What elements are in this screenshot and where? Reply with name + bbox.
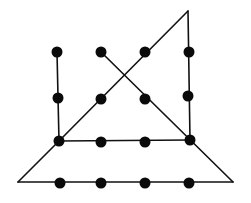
line-right-vertical	[188, 11, 190, 140]
grid-dots	[52, 47, 196, 189]
connecting-lines	[18, 11, 233, 182]
dot-r1c1	[52, 47, 63, 58]
line-falling-diagonal	[101, 52, 233, 182]
line-rising-diagonal	[59, 11, 188, 141]
dot-r1c3	[140, 47, 151, 58]
dot-r2c1	[53, 93, 64, 104]
dot-r1c4	[184, 47, 195, 58]
line-middle-horizontal	[59, 140, 190, 141]
dot-r3c2	[96, 137, 107, 148]
dot-r4c2	[96, 178, 107, 189]
dot-r4c3	[140, 178, 151, 189]
dot-r2c4	[183, 91, 194, 102]
dot-puzzle-diagram	[0, 0, 251, 203]
dot-r2c2	[96, 94, 107, 105]
dot-r4c1	[55, 178, 66, 189]
dot-r3c3	[140, 137, 151, 148]
dot-r4c4	[184, 178, 195, 189]
dot-r3c4	[185, 135, 196, 146]
dot-r2c3	[140, 94, 151, 105]
line-lower-left-diagonal	[18, 141, 59, 182]
dot-r1c2	[96, 47, 107, 58]
dot-r3c1	[54, 136, 65, 147]
